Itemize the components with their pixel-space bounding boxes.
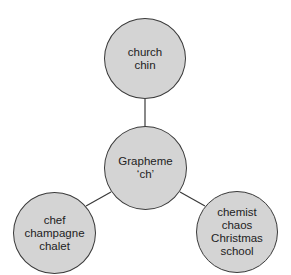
node-top: church chin xyxy=(104,18,186,99)
node-left: chef champagne chalet xyxy=(13,192,96,274)
node-top-line-2: chin xyxy=(134,59,155,72)
connector-center-right xyxy=(180,192,205,206)
node-center-line-1: Grapheme xyxy=(118,155,172,168)
node-top-line-1: church xyxy=(128,46,163,59)
node-center-line-2: ‘ch’ xyxy=(137,168,154,181)
node-right-line-4: school xyxy=(220,245,253,258)
node-right-line-1: chemist xyxy=(217,206,257,219)
node-left-line-1: chef xyxy=(44,214,66,227)
node-left-line-3: chalet xyxy=(39,240,70,253)
node-right-line-2: chaos xyxy=(222,219,253,232)
node-right-line-3: Christmas xyxy=(211,232,263,245)
node-left-line-2: champagne xyxy=(24,227,84,240)
connector-center-left xyxy=(86,192,111,206)
node-right: chemist chaos Christmas school xyxy=(196,191,278,273)
node-center: Grapheme ‘ch’ xyxy=(104,126,187,210)
